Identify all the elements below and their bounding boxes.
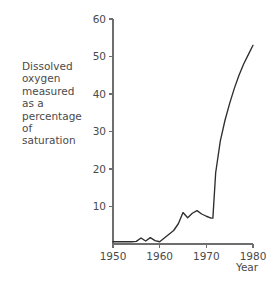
y-tick-label: 10 xyxy=(93,200,106,212)
y-tick-label: 40 xyxy=(93,88,106,100)
data-series-group xyxy=(113,45,253,242)
y-tick-label: 20 xyxy=(93,163,106,175)
y-tick-label: 50 xyxy=(93,50,106,62)
x-axis-ticks xyxy=(113,244,253,248)
chart-figure: 102030405060 1950196019701980 Dissolved … xyxy=(0,0,278,286)
y-axis-label: Dissolved oxygen measured as a percentag… xyxy=(22,60,94,147)
y-axis-tick-labels: 102030405060 xyxy=(93,13,106,213)
x-tick-label: 1950 xyxy=(100,250,127,262)
series-line-dissolved-oxygen xyxy=(113,45,253,242)
y-tick-label: 30 xyxy=(93,125,106,137)
y-axis-ticks xyxy=(109,19,113,207)
y-tick-label: 60 xyxy=(93,13,106,25)
x-axis-label: Year xyxy=(222,261,272,273)
x-tick-label: 1960 xyxy=(146,250,173,262)
axis-group xyxy=(113,19,253,244)
x-tick-label: 1970 xyxy=(193,250,220,262)
